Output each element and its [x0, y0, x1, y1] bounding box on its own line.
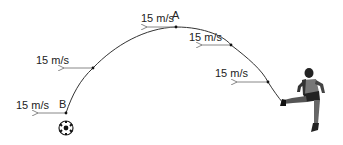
trajectory-curve	[66, 27, 283, 113]
point-b-dot	[65, 112, 68, 115]
point-b-label: B	[59, 99, 66, 110]
point-left-upper-dot	[92, 67, 95, 70]
velocity-label-a: 15 m/s	[141, 13, 174, 24]
kicking-player-icon	[280, 68, 325, 132]
point-right-upper-dot	[230, 44, 233, 47]
velocity-label-right-lower: 15 m/s	[215, 68, 248, 79]
velocity-label-left-upper: 15 m/s	[36, 55, 69, 66]
soccer-ball-icon	[59, 121, 73, 135]
point-right-lower-dot	[267, 81, 270, 84]
velocity-label-right-upper: 15 m/s	[189, 32, 222, 43]
trajectory-diagram: A B 15 m/s 15 m/s 15 m/s 15 m/s 15 m/s	[0, 0, 343, 145]
velocity-label-b: 15 m/s	[16, 100, 49, 111]
point-a-dot	[175, 26, 178, 29]
